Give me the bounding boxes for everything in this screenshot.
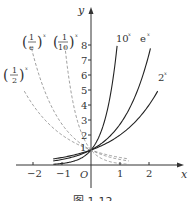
svg-text:(: ( [22,34,27,50]
y-tick-label: 1 [80,142,86,153]
x-tick-label: −1 [56,168,71,179]
y-axis-label: y [77,4,85,17]
curve-ex [53,48,150,160]
y-tick-label: 7 [81,55,87,66]
svg-text:1: 1 [12,66,17,75]
y-tick-label: 4 [81,100,87,111]
svg-text:x: x [25,65,28,71]
label-1-over-10-x: ( 1 10 ) x [53,32,78,52]
svg-text:2: 2 [12,76,17,85]
x-axis-arrow-icon [177,163,184,168]
svg-text:10: 10 [58,43,68,52]
curve-1-over-2-x [24,91,128,159]
svg-text:x: x [128,31,131,37]
y-axis-arrow-icon [89,7,94,14]
label-10x: 10 x [116,31,131,44]
svg-text:x: x [43,32,46,38]
figure-caption: 图 1-12 [73,195,112,201]
exponential-functions-figure: −2−11212345678 x y O 10 x e x 2 x ( 1 e … [0,0,188,201]
svg-text:): ) [69,34,74,50]
x-tick-label: −2 [27,168,42,179]
y-tick-label: 5 [81,85,87,96]
svg-text:10: 10 [116,33,129,44]
svg-text:x: x [164,70,167,76]
label-1-over-2-x: ( 1 2 ) x [3,65,28,85]
svg-text:e: e [140,33,146,44]
curve-2x [53,91,157,159]
label-ex: e x [140,31,150,44]
label-1-over-e-x: ( 1 e ) x [22,32,46,52]
svg-text:x: x [147,31,150,37]
graph: −2−11212345678 x y O 10 x e x 2 x ( 1 e … [0,0,188,201]
x-tick-label: 2 [146,168,152,179]
svg-text:x: x [75,32,78,38]
svg-text:e: e [29,43,34,52]
x-axis-label: x [181,168,188,181]
svg-text:1: 1 [62,33,67,42]
origin-label: O [80,169,88,180]
svg-text:): ) [37,34,42,50]
svg-text:): ) [19,67,24,83]
y-tick-label: 8 [81,40,87,51]
svg-text:1: 1 [29,33,34,42]
y-tick-label: 2 [81,130,87,141]
ticks: −2−11212345678 [27,40,152,179]
label-2x: 2 x [158,70,167,83]
x-tick-label: 1 [117,168,123,179]
y-tick-label: 6 [81,70,87,81]
y-tick-label: 3 [81,115,87,126]
svg-text:(: ( [3,67,8,83]
